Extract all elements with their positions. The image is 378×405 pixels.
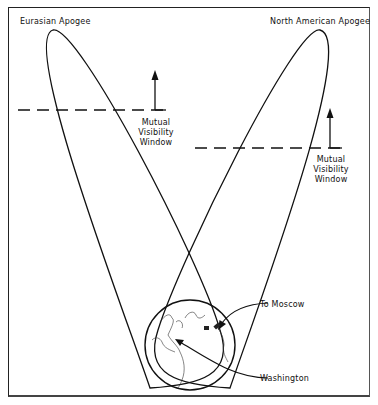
earth-globe	[145, 300, 235, 390]
right-window-label: Mutual Visibility Window	[309, 155, 353, 185]
left-window-label: Mutual Visibility Window	[136, 118, 176, 148]
orbit-diagram	[0, 0, 378, 405]
north-american-orbit	[155, 30, 329, 388]
north-american-apogee-label: North American Apogee	[270, 17, 370, 27]
washington-label: Washington	[260, 374, 309, 384]
to-moscow-label: To Moscow	[260, 300, 305, 310]
eurasian-orbit	[46, 30, 223, 388]
eurasian-apogee-label: Eurasian Apogee	[20, 17, 91, 27]
